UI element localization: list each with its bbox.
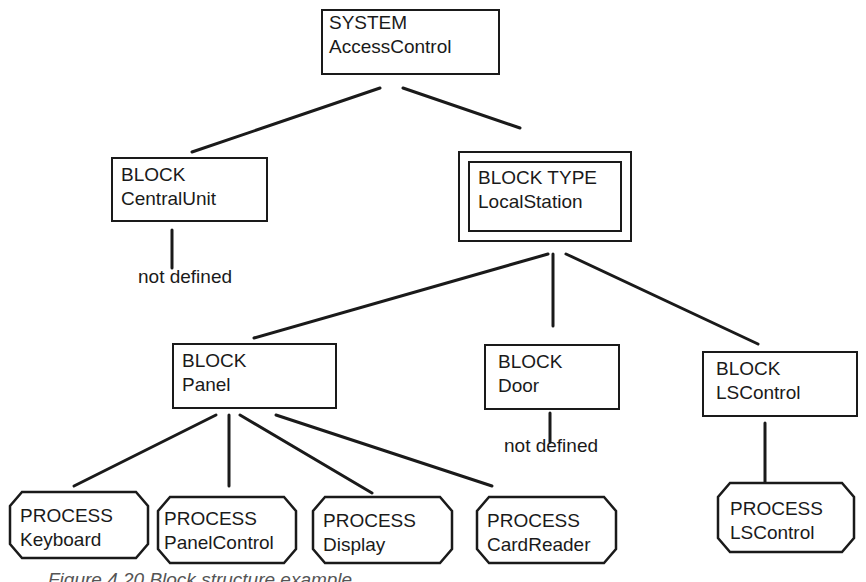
not-defined-label-door: not defined: [504, 435, 598, 457]
node-name: CentralUnit: [121, 187, 258, 211]
node-kind: BLOCK: [716, 357, 848, 381]
block-node-panel: BLOCK Panel: [172, 343, 337, 409]
figure-caption: Figure 4.20 Block structure example: [48, 568, 352, 582]
node-name: LSControl: [730, 521, 848, 545]
node-name: Door: [498, 374, 610, 398]
node-kind: PROCESS: [730, 497, 848, 521]
system-node-accesscontrol: SYSTEM AccessControl: [321, 9, 500, 75]
node-name: LocalStation: [478, 190, 612, 214]
block-type-node-localstation: BLOCK TYPE LocalStation: [458, 151, 632, 242]
node-name: PanelControl: [164, 531, 294, 555]
node-name: Keyboard: [20, 528, 142, 552]
not-defined-label-centralunit: not defined: [138, 266, 232, 288]
node-kind: BLOCK: [121, 163, 258, 187]
process-node-lscontrol: PROCESS LSControl: [716, 481, 856, 554]
node-name: LSControl: [716, 381, 848, 405]
block-type-inner-frame: BLOCK TYPE LocalStation: [468, 161, 622, 232]
block-node-door: BLOCK Door: [484, 344, 620, 410]
node-kind: PROCESS: [323, 509, 446, 533]
node-name: Panel: [182, 373, 327, 397]
node-name: AccessControl: [329, 35, 492, 59]
node-name: CardReader: [487, 533, 610, 557]
process-node-cardreader: PROCESS CardReader: [475, 495, 618, 565]
node-kind: BLOCK: [498, 350, 610, 374]
node-kind: PROCESS: [487, 509, 610, 533]
block-node-centralunit: BLOCK CentralUnit: [111, 157, 268, 222]
node-kind: PROCESS: [164, 507, 294, 531]
process-node-display: PROCESS Display: [311, 495, 454, 565]
node-kind: PROCESS: [20, 504, 142, 528]
node-kind: BLOCK: [182, 349, 327, 373]
node-kind: SYSTEM: [329, 11, 492, 35]
node-kind: BLOCK TYPE: [478, 166, 612, 190]
node-name: Display: [323, 533, 446, 557]
process-node-keyboard: PROCESS Keyboard: [8, 490, 150, 560]
block-node-lscontrol: BLOCK LSControl: [702, 351, 858, 417]
process-node-panelcontrol: PROCESS PanelControl: [156, 495, 298, 565]
